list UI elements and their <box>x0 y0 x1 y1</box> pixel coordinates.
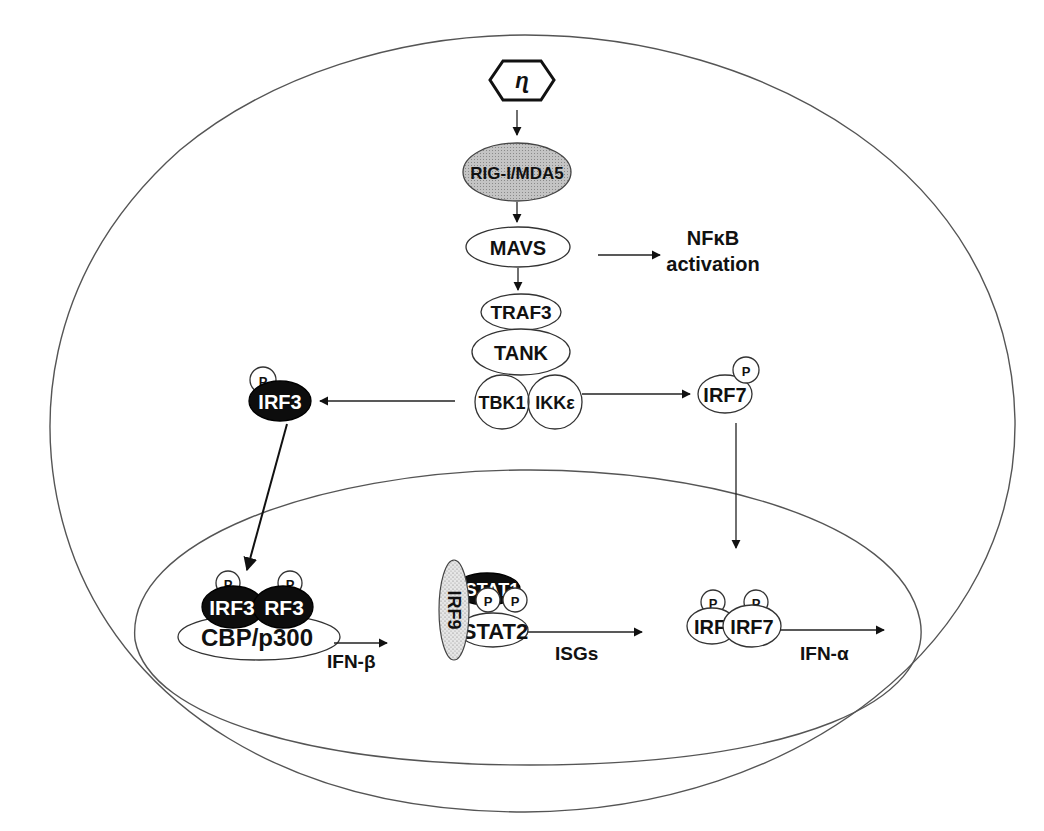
node-tank: TANK <box>472 329 570 375</box>
svg-text:RF3: RF3 <box>264 596 304 619</box>
svg-text:P: P <box>484 594 493 609</box>
svg-text:P: P <box>511 594 520 609</box>
svg-text:IRF3: IRF3 <box>209 596 255 619</box>
svg-text:MAVS: MAVS <box>490 237 546 259</box>
label-ifn-alpha: IFN-α <box>800 643 849 664</box>
node-traf3: TRAF3 <box>481 294 561 330</box>
svg-text:IRF: IRF <box>694 616 726 638</box>
svg-text:IRF7: IRF7 <box>730 616 773 638</box>
pathway-diagram: ɳ RIG-I/MDA5 MAVS NFκB activation TRAF3 … <box>0 0 1044 831</box>
node-mavs: MAVS <box>466 227 570 267</box>
virus-rna-glyph: ɳ <box>515 68 529 93</box>
svg-text:IKKε: IKKε <box>535 393 575 413</box>
svg-text:TRAF3: TRAF3 <box>490 302 551 323</box>
complex-isgf3: STAT1 P P STAT2 IRF9 <box>439 560 528 660</box>
svg-text:STAT2: STAT2 <box>462 619 528 644</box>
label-nfkb-activation: NFκB activation <box>666 227 759 275</box>
virus-hexagon-icon: ɳ <box>490 61 554 100</box>
svg-text:TANK: TANK <box>494 342 549 364</box>
arrow-irf3-to-nucleus <box>247 424 287 570</box>
node-ikk-epsilon: IKKε <box>528 375 582 429</box>
svg-text:activation: activation <box>666 253 759 275</box>
complex-irf3-dimer-cbp-p300: CBP/p300 P P IRF3 RF3 <box>178 571 340 660</box>
svg-text:IRF7: IRF7 <box>703 384 746 406</box>
label-isgs: ISGs <box>555 643 598 664</box>
node-irf3-phosphorylated: P IRF3 <box>249 367 311 421</box>
svg-text:NFκB: NFκB <box>687 227 739 249</box>
svg-text:IRF9: IRF9 <box>444 590 464 629</box>
svg-text:CBP/p300: CBP/p300 <box>201 624 313 651</box>
svg-text:RIG-I/MDA5: RIG-I/MDA5 <box>470 164 564 183</box>
node-irf7-phosphorylated: IRF7 P <box>698 357 759 413</box>
label-ifn-beta: IFN-β <box>327 651 376 672</box>
svg-text:TBK1: TBK1 <box>478 393 525 413</box>
node-tbk1: TBK1 <box>475 375 529 429</box>
complex-irf7-dimer: P P IRF IRF7 <box>687 590 781 647</box>
svg-text:P: P <box>742 364 751 379</box>
svg-text:IRF3: IRF3 <box>258 391 301 413</box>
node-rig-i-mda5: RIG-I/MDA5 <box>463 143 571 201</box>
